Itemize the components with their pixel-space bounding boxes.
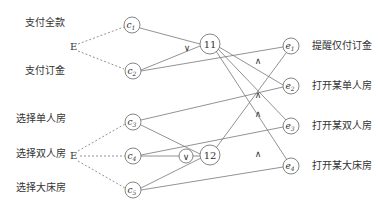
svg-text:∨: ∨ [184, 43, 191, 53]
effect-label-1: 提醒仅付订金 [312, 40, 372, 52]
cause-label-2: 支付订金 [25, 65, 65, 77]
effect-label-4: 打开某大床房 [312, 160, 372, 172]
cause-label-1: 支付全款 [25, 17, 65, 29]
svg-text:∧: ∧ [255, 109, 262, 119]
svg-text:∧: ∧ [255, 56, 262, 66]
svg-text:∨: ∨ [183, 152, 190, 162]
cause-effect-graph: c1 c2 c3 c4 c5 e1 e2 e3 e4 11 12 ∨ ∨ ∧ ∧… [0, 0, 379, 215]
svg-text:∧: ∧ [255, 90, 262, 100]
svg-text:∧: ∧ [255, 149, 262, 159]
effect-label-2: 打开某单人房 [312, 80, 372, 92]
event-e-bottom: E [70, 150, 77, 162]
svg-text:12: 12 [204, 150, 217, 161]
event-e-top: E [70, 41, 77, 53]
svg-text:11: 11 [204, 39, 217, 50]
cause-label-5: 选择大床房 [16, 182, 66, 194]
effect-label-3: 打开某双人房 [312, 120, 372, 132]
cause-label-4: 选择双人房 [16, 148, 66, 160]
cause-label-3: 选择单人房 [16, 113, 66, 125]
